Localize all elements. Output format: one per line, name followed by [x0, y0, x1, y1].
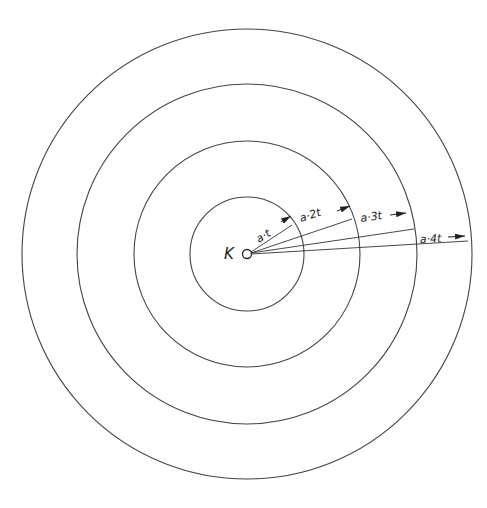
ring-label-1: a·t — [254, 226, 274, 245]
ring-label-4: a·4t — [419, 232, 442, 246]
arrow-2 — [337, 206, 350, 211]
diagram-canvas: K a·t a·2t a·3t a·4t — [0, 0, 487, 508]
arrow-4 — [448, 236, 465, 237]
arrow-1 — [281, 216, 291, 222]
arrow-3 — [390, 213, 406, 215]
concentric-circles-diagram: K a·t a·2t a·3t a·4t — [0, 0, 487, 508]
ring-label-3: a·3t — [360, 209, 384, 225]
ring-label-2: a·2t — [298, 206, 323, 225]
center-label: K — [224, 245, 235, 263]
center-point — [243, 250, 252, 259]
